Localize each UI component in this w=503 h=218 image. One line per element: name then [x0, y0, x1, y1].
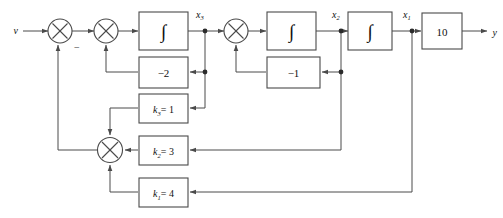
state-label-x2: x2 [331, 9, 340, 21]
state-label-x1-subscript: 1 [407, 14, 410, 21]
sum-input-sign-label: − [74, 42, 80, 53]
gain-minus-2-label: −2 [158, 67, 170, 79]
junction-dot-x2-branch [339, 70, 344, 75]
sum-third[interactable] [224, 19, 248, 43]
integrator-2[interactable]: ∫ [267, 12, 316, 50]
gain-minus-1[interactable]: −1 [267, 57, 320, 88]
integrator-1[interactable]: ∫ [139, 12, 188, 50]
sum-second[interactable] [94, 19, 118, 43]
gain-k3-equation: = 1 [161, 104, 174, 115]
block-diagram-svg: − ∫ ∫ ∫ [0, 0, 503, 218]
junction-dot-x3-branch [203, 70, 208, 75]
integrator-3[interactable]: ∫ [348, 12, 392, 50]
input-signal-label: v [14, 25, 19, 36]
state-label-x2-subscript: 2 [336, 14, 340, 21]
block-diagram-canvas: − ∫ ∫ ∫ [0, 0, 503, 218]
junction-dot-x1 [410, 29, 415, 34]
junction-dot-x3 [203, 29, 208, 34]
svg-text:k2= 3: k2= 3 [153, 146, 174, 159]
gain-k1[interactable]: k1= 4 [139, 178, 188, 207]
svg-text:k1= 4: k1= 4 [153, 188, 174, 201]
gain-k2-equation: = 3 [161, 146, 174, 157]
gain-minus-2[interactable]: −2 [139, 57, 188, 88]
sum-input[interactable] [48, 19, 72, 43]
gain-k1-equation: = 4 [161, 188, 174, 199]
svg-text:k3= 1: k3= 1 [153, 104, 174, 117]
output-signal-label: y [492, 27, 498, 38]
state-label-x3-subscript: 3 [199, 14, 204, 21]
state-label-x3: x3 [195, 9, 204, 21]
sum-feedback[interactable] [98, 138, 123, 163]
junction-dot-x2 [339, 29, 344, 34]
gain-output-label: 10 [437, 26, 449, 38]
state-label-x1: x1 [402, 9, 411, 21]
gain-k2[interactable]: k2= 3 [139, 136, 188, 165]
gain-k3[interactable]: k3= 1 [139, 94, 188, 123]
gain-minus-1-label: −1 [288, 67, 300, 79]
main-feedback-wires [58, 45, 98, 150]
gain-output[interactable]: 10 [422, 13, 462, 49]
